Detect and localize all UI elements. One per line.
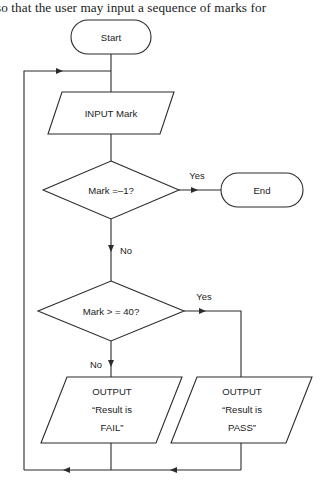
arrowhead-loop-back — [56, 68, 63, 74]
arrowhead-no-down-2 — [108, 360, 114, 367]
arrowhead-rail-left-1 — [63, 467, 70, 473]
node-output-fail-label-line1: OUTPUT — [92, 386, 132, 397]
node-output-fail-label-line2: “Result is — [92, 404, 132, 415]
node-output-pass-label-line3: PASS” — [228, 422, 256, 433]
connector-check-pass-yes-to-output-pass — [184, 311, 241, 377]
node-output-pass-label-line1: OUTPUT — [222, 386, 262, 397]
edge-label-no-2: No — [90, 359, 102, 370]
node-start-label: Start — [101, 32, 122, 43]
edge-label-yes-2: Yes — [196, 291, 212, 302]
node-check-minus1-label: Mark =–1? — [88, 185, 134, 196]
node-end-label: End — [253, 185, 270, 196]
edge-label-no-1: No — [120, 245, 132, 256]
edge-label-yes-1: Yes — [189, 170, 205, 181]
arrowhead-yes-to-end — [191, 187, 198, 193]
node-output-pass-label-line2: “Result is — [222, 404, 262, 415]
node-check-pass-label: Mark > = 40? — [83, 306, 140, 317]
flowchart-page: so that the user may input a sequence of… — [0, 0, 323, 499]
arrowhead-no-down-1 — [108, 245, 114, 252]
node-input-mark-label: INPUT Mark — [85, 108, 138, 119]
node-output-fail-label-line3: FAIL” — [101, 422, 124, 433]
arrowhead-yes-to-output-pass — [199, 308, 206, 314]
arrowhead-rail-left-2 — [170, 467, 177, 473]
flowchart-canvas: Start INPUT Mark Mark =–1? End Mark > = … — [0, 0, 323, 499]
